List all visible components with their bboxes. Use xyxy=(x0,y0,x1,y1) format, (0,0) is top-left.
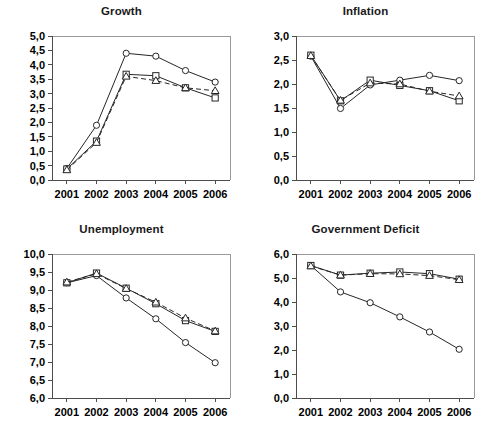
plot-area-inflation: 0,00,51,01,52,02,53,02001200220032004200… xyxy=(244,4,487,219)
data-point-marker-circle xyxy=(337,289,343,295)
y-tick-label: 1,0 xyxy=(30,145,45,157)
y-tick-label: 2,0 xyxy=(274,344,289,356)
y-tick-label: 5,0 xyxy=(274,272,289,284)
y-tick-label: 2,0 xyxy=(274,78,289,90)
y-tick-label: 7,5 xyxy=(30,338,45,350)
y-tick-label: 0,0 xyxy=(274,392,289,404)
x-tick-label: 2003 xyxy=(358,406,382,418)
data-series-circle xyxy=(64,50,219,171)
y-tick-label: 5,0 xyxy=(30,30,45,42)
data-point-marker-square xyxy=(212,95,218,101)
y-tick-label: 0,0 xyxy=(30,174,45,186)
y-tick-label: 3,0 xyxy=(30,88,45,100)
x-tick-label: 2001 xyxy=(299,188,323,200)
data-point-marker-circle xyxy=(182,67,188,73)
plot-area-government-deficit: 0,01,02,03,04,05,06,02001200220032004200… xyxy=(244,222,487,437)
series-polyline xyxy=(67,53,215,168)
data-point-marker-circle xyxy=(123,50,129,56)
plot-area-unemployment: 6,06,57,07,58,08,59,09,510,0200120022003… xyxy=(0,222,243,437)
x-tick-label: 2004 xyxy=(388,188,413,200)
x-tick-label: 2003 xyxy=(114,406,138,418)
data-point-marker-circle xyxy=(337,105,343,111)
data-point-marker-circle xyxy=(456,78,462,84)
x-tick-label: 2005 xyxy=(173,188,197,200)
series-polyline xyxy=(67,273,215,331)
x-tick-label: 2004 xyxy=(144,188,169,200)
x-tick-label: 2002 xyxy=(328,406,352,418)
data-point-marker-circle xyxy=(182,339,188,345)
x-tick-label: 2004 xyxy=(388,406,413,418)
plot-frame xyxy=(296,36,474,180)
data-point-marker-circle xyxy=(426,329,432,335)
y-tick-label: 1,0 xyxy=(274,126,289,138)
chart-panel-inflation: Inflation 0,00,51,01,52,02,53,0200120022… xyxy=(244,4,487,219)
chart-panel-growth: Growth 0,00,51,01,52,02,53,03,54,04,55,0… xyxy=(0,4,243,219)
y-tick-label: 1,5 xyxy=(274,102,289,114)
series-polyline xyxy=(311,55,459,101)
data-series-square xyxy=(64,270,219,335)
x-tick-label: 2003 xyxy=(114,188,138,200)
y-tick-label: 6,0 xyxy=(30,392,45,404)
x-tick-label: 2005 xyxy=(417,188,441,200)
y-tick-label: 9,0 xyxy=(30,284,45,296)
y-tick-label: 2,5 xyxy=(30,102,45,114)
data-point-marker-circle xyxy=(397,314,403,320)
chart-axes xyxy=(52,254,230,398)
y-tick-label: 8,0 xyxy=(30,320,45,332)
plot-area-growth: 0,00,51,01,52,02,53,03,54,04,55,02001200… xyxy=(0,4,243,219)
x-tick-label: 2002 xyxy=(328,188,352,200)
data-point-marker-circle xyxy=(123,295,129,301)
y-tick-label: 7,0 xyxy=(30,356,45,368)
x-tick-label: 2004 xyxy=(144,406,169,418)
y-tick-label: 10,0 xyxy=(24,248,45,260)
chart-panel-government-deficit: Government Deficit 0,01,02,03,04,05,06,0… xyxy=(244,222,487,437)
chart-panel-unemployment: Unemployment 6,06,57,07,58,08,59,09,510,… xyxy=(0,222,243,437)
y-tick-label: 3,0 xyxy=(274,320,289,332)
y-tick-label: 3,5 xyxy=(30,73,45,85)
data-point-marker-circle xyxy=(153,316,159,322)
y-tick-label: 9,5 xyxy=(30,266,45,278)
series-polyline xyxy=(311,266,459,350)
y-tick-label: 0,0 xyxy=(274,174,289,186)
y-tick-label: 3,0 xyxy=(274,30,289,42)
data-point-marker-circle xyxy=(93,122,99,128)
data-series-square xyxy=(308,52,463,104)
data-point-marker-circle xyxy=(212,360,218,366)
y-tick-label: 4,0 xyxy=(274,296,289,308)
data-series-square xyxy=(64,71,219,172)
series-polyline xyxy=(67,276,215,363)
x-tick-label: 2002 xyxy=(84,406,108,418)
y-tick-label: 6,0 xyxy=(274,248,289,260)
plot-frame xyxy=(52,254,230,398)
data-point-marker-circle xyxy=(212,79,218,85)
data-point-marker-triangle xyxy=(455,92,463,99)
x-tick-label: 2001 xyxy=(55,406,79,418)
y-tick-label: 4,0 xyxy=(30,59,45,71)
x-tick-label: 2006 xyxy=(447,188,471,200)
y-tick-label: 8,5 xyxy=(30,302,45,314)
y-tick-label: 6,5 xyxy=(30,374,45,386)
x-tick-label: 2006 xyxy=(203,406,227,418)
data-series-triangle xyxy=(63,72,219,172)
y-tick-label: 2,0 xyxy=(30,116,45,128)
data-series-circle xyxy=(64,273,219,366)
data-point-marker-circle xyxy=(456,346,462,352)
series-polyline xyxy=(311,266,459,280)
data-point-marker-circle xyxy=(367,300,373,306)
x-tick-label: 2002 xyxy=(84,188,108,200)
data-point-marker-circle xyxy=(426,72,432,78)
x-tick-label: 2001 xyxy=(299,406,323,418)
y-tick-label: 0,5 xyxy=(274,150,289,162)
y-tick-label: 1,5 xyxy=(30,131,45,143)
x-tick-label: 2003 xyxy=(358,188,382,200)
x-tick-label: 2001 xyxy=(55,188,79,200)
data-point-marker-circle xyxy=(153,53,159,59)
multi-panel-chart-figure: Growth 0,00,51,01,52,02,53,03,54,04,55,0… xyxy=(0,0,487,438)
data-series-square xyxy=(308,262,463,282)
x-tick-label: 2006 xyxy=(203,188,227,200)
y-tick-label: 0,5 xyxy=(30,160,45,172)
series-polyline xyxy=(67,274,215,331)
y-tick-label: 2,5 xyxy=(274,54,289,66)
y-tick-label: 4,5 xyxy=(30,44,45,56)
x-tick-label: 2005 xyxy=(417,406,441,418)
